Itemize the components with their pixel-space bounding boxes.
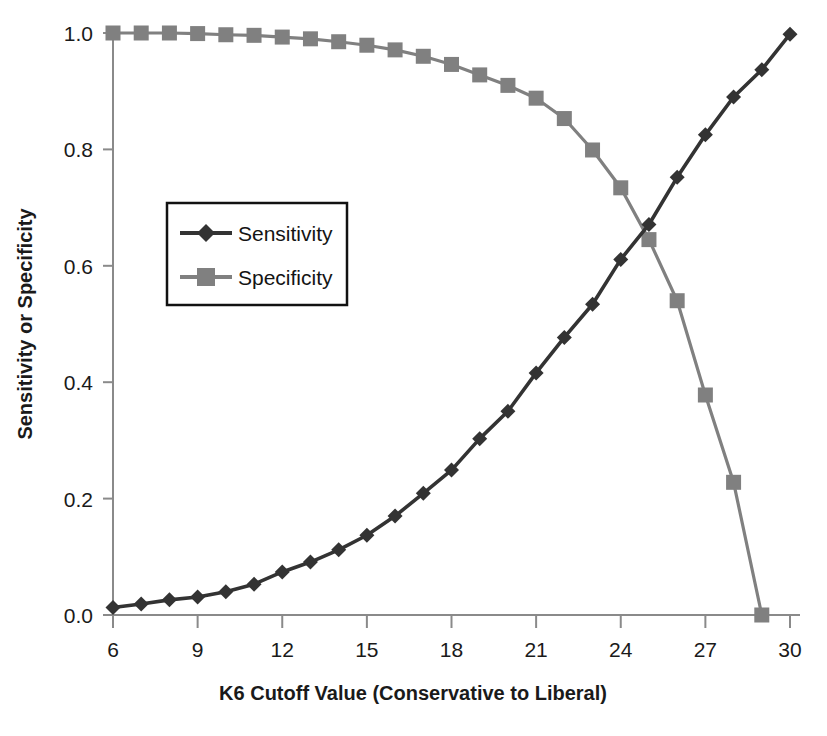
specificity-marker	[613, 180, 628, 195]
specificity-marker	[472, 67, 487, 82]
specificity-marker	[162, 26, 177, 41]
x-axis-title: K6 Cutoff Value (Conservative to Liberal…	[219, 682, 607, 704]
specificity-marker	[641, 232, 656, 247]
x-tick-label: 6	[107, 638, 119, 661]
specificity-marker	[303, 31, 318, 46]
x-tick-label: 24	[609, 638, 633, 661]
specificity-marker	[106, 26, 121, 41]
y-tick-label: 0.2	[64, 488, 93, 511]
specificity-marker	[416, 49, 431, 64]
x-tick-label: 30	[778, 638, 801, 661]
y-tick-label: 0.8	[64, 138, 93, 161]
legend-label-sensitivity: Sensitivity	[238, 222, 333, 245]
specificity-marker	[331, 34, 346, 49]
specificity-marker	[500, 78, 515, 93]
specificity-marker	[247, 28, 262, 43]
legend-label-specificity: Specificity	[238, 266, 333, 289]
x-tick-label: 27	[694, 638, 717, 661]
specificity-marker	[529, 91, 544, 106]
specificity-marker	[698, 388, 713, 403]
legend-box	[167, 203, 347, 305]
y-tick-label: 0.4	[64, 371, 94, 394]
x-tick-label: 21	[524, 638, 547, 661]
specificity-marker	[444, 57, 459, 72]
roc-cutoff-line-chart: 0.00.20.40.60.81.0 6912151821242730 K6 C…	[0, 0, 827, 736]
y-tick-label: 0.0	[64, 604, 93, 627]
square-marker-icon	[197, 268, 215, 286]
y-tick-label: 0.6	[64, 255, 93, 278]
x-tick-label: 12	[271, 638, 294, 661]
specificity-marker	[218, 27, 233, 42]
specificity-marker	[726, 475, 741, 490]
chart-background	[0, 0, 827, 736]
y-axis-title: Sensitivity or Specificity	[14, 208, 36, 440]
specificity-marker	[670, 293, 685, 308]
y-tick-label: 1.0	[64, 22, 93, 45]
specificity-marker	[134, 26, 149, 41]
specificity-marker	[190, 26, 205, 41]
legend: Sensitivity Specificity	[167, 203, 347, 305]
specificity-marker	[275, 30, 290, 45]
chart-figure: 0.00.20.40.60.81.0 6912151821242730 K6 C…	[0, 0, 827, 736]
x-tick-label: 15	[355, 638, 378, 661]
specificity-marker	[754, 608, 769, 623]
x-tick-label: 9	[192, 638, 204, 661]
legend-entry-specificity[interactable]: Specificity	[180, 266, 333, 289]
x-tick-label: 18	[440, 638, 463, 661]
specificity-marker	[359, 38, 374, 53]
specificity-marker	[557, 111, 572, 126]
specificity-marker	[585, 142, 600, 157]
specificity-marker	[388, 42, 403, 57]
